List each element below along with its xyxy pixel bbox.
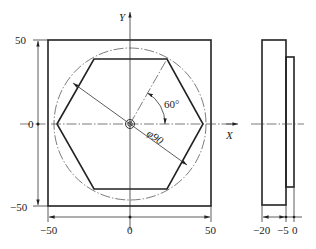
- side-dim-dot-right: [293, 216, 296, 219]
- outer-square: [48, 40, 211, 206]
- x-dim-label-left: −50: [40, 224, 58, 236]
- side-view: −20 −5 0: [251, 40, 304, 236]
- side-raised-block: [286, 57, 294, 187]
- side-base-block: [262, 40, 286, 205]
- y-dim-label-middle: 0: [28, 118, 34, 130]
- x-axis-label: X: [225, 129, 234, 141]
- side-dim-dot-mid: [285, 216, 288, 219]
- diameter-label: φ90: [145, 127, 166, 147]
- x-dim-zero-dot: [129, 216, 132, 219]
- angle-reference-line: [130, 59, 167, 124]
- y-dim-zero-dot: [37, 123, 40, 126]
- angle-arc: [148, 93, 166, 124]
- y-dim-label-top: 50: [15, 34, 27, 46]
- technical-drawing: Y X 60° φ90 50 0 −50 −50 0 50: [0, 0, 316, 249]
- angle-label: 60°: [164, 98, 179, 110]
- x-dim-label-right: 50: [205, 224, 217, 236]
- front-view: Y X 60° φ90 50 0 −50 −50 0 50: [10, 11, 238, 236]
- side-dim-label-20: −20: [253, 224, 271, 236]
- side-dim-label-0: 0: [292, 224, 298, 236]
- y-axis-label: Y: [119, 11, 127, 23]
- side-dim-label-5: −5: [277, 224, 289, 236]
- x-dim-label-middle: 0: [127, 224, 133, 236]
- y-dim-label-bottom: −50: [10, 201, 28, 213]
